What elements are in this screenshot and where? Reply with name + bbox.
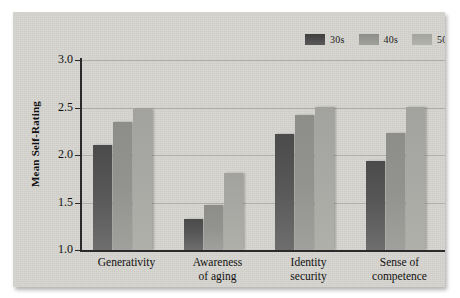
y-axis-line — [80, 58, 82, 251]
bar-30s-2 — [275, 134, 294, 250]
x-category-label-line: of aging — [172, 270, 263, 284]
x-category-label-line: security — [263, 270, 354, 284]
y-tick-label-1-5: 1.5 — [37, 195, 73, 210]
y-axis-title: Mean Self-Rating — [29, 84, 41, 204]
x-category-label: Generativity — [81, 256, 172, 270]
bar-50s-1 — [224, 173, 243, 250]
x-category-label-line: competence — [354, 270, 445, 284]
plot-area — [81, 60, 445, 250]
bar-40s-0 — [113, 122, 132, 250]
y-tick-mark-3-0 — [75, 60, 80, 61]
bar-50s-0 — [133, 109, 152, 250]
x-category-label-line: Generativity — [81, 256, 172, 270]
y-tick-mark-2-0 — [75, 155, 80, 156]
bar-50s-2 — [315, 107, 334, 250]
y-tick-mark-1-5 — [75, 203, 80, 204]
legend-item-30s: 30s — [305, 34, 345, 45]
chart-legend: 30s 40s 50s — [305, 34, 445, 45]
legend-item-50s: 50s — [412, 34, 445, 45]
legend-swatch-30s — [305, 34, 325, 45]
y-tick-mark-2-5 — [75, 108, 80, 109]
y-tick-label-2-0: 2.0 — [37, 147, 73, 162]
bar-30s-0 — [93, 145, 112, 250]
bar-chart-figure: 30s 40s 50s Mean Self-Rating 1.01.52.02.… — [0, 0, 460, 298]
legend-swatch-50s — [412, 34, 432, 45]
legend-swatch-40s — [359, 34, 379, 45]
legend-label-40s: 40s — [384, 34, 399, 45]
legend-item-40s: 40s — [359, 34, 399, 45]
bar-30s-1 — [184, 219, 203, 250]
x-category-label-line: Awareness — [172, 256, 263, 270]
bar-group — [93, 60, 152, 250]
x-category-label-line: Sense of — [354, 256, 445, 270]
bar-group — [184, 60, 243, 250]
y-tick-label-3-0: 3.0 — [37, 52, 73, 67]
x-category-label: Identitysecurity — [263, 256, 354, 283]
bar-group — [366, 60, 425, 250]
legend-label-50s: 50s — [437, 34, 445, 45]
x-category-label-line: Identity — [263, 256, 354, 270]
bar-30s-3 — [366, 161, 385, 250]
legend-label-30s: 30s — [330, 34, 345, 45]
y-tick-mark-1-0 — [75, 250, 80, 251]
bar-group — [275, 60, 334, 250]
x-category-label: Awarenessof aging — [172, 256, 263, 283]
y-tick-label-1-0: 1.0 — [37, 242, 73, 257]
bar-40s-2 — [295, 115, 314, 250]
y-tick-label-2-5: 2.5 — [37, 100, 73, 115]
bar-40s-3 — [386, 133, 405, 250]
bar-50s-3 — [406, 107, 425, 250]
x-category-label: Sense ofcompetence — [354, 256, 445, 283]
x-axis-line — [80, 250, 445, 252]
bar-40s-1 — [204, 205, 223, 250]
chart-panel: 30s 40s 50s Mean Self-Rating 1.01.52.02.… — [13, 12, 445, 287]
